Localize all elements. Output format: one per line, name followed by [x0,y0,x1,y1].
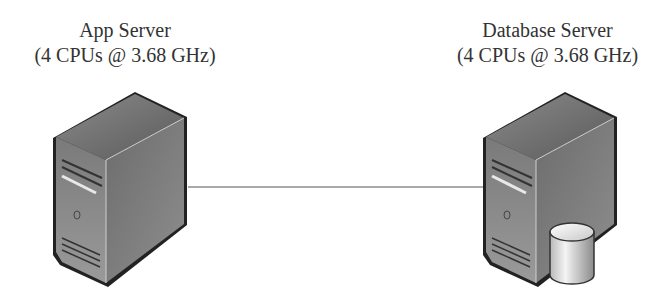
database-server-icon [483,92,617,287]
network-diagram [0,0,671,296]
database-cylinder-icon [550,223,594,284]
server-tower-icon [53,92,187,287]
